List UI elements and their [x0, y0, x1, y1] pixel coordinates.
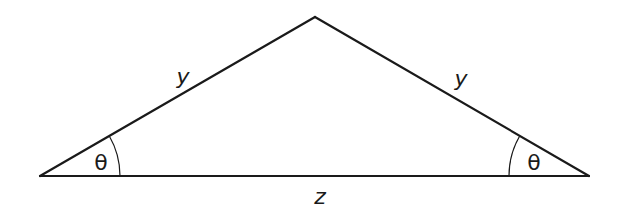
triangle	[40, 17, 589, 176]
angle-label-right: θ	[527, 150, 540, 175]
angle-arc-left	[109, 136, 120, 176]
isosceles-triangle-diagram: y y z θ θ	[0, 0, 619, 212]
side-left	[40, 17, 315, 176]
side-label-right: y	[453, 66, 468, 91]
side-label-left: y	[175, 64, 190, 89]
angle-label-left: θ	[94, 150, 107, 175]
side-label-base: z	[313, 184, 326, 209]
angle-arc-right	[509, 136, 520, 176]
side-right	[315, 17, 589, 176]
